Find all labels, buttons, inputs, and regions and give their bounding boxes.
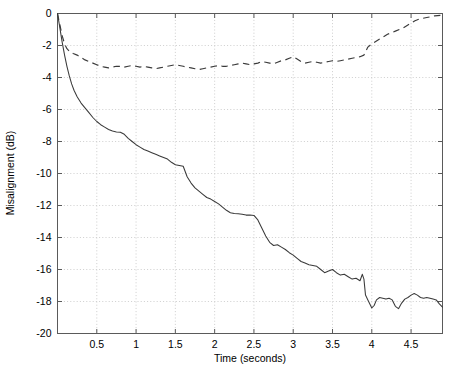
x-axis-title: Time (seconds) — [214, 352, 286, 364]
x-tick-label: 4 — [369, 338, 375, 350]
misalignment-chart: 0.511.522.533.544.5 0-2-4-6-8-10-12-14-1… — [0, 0, 458, 374]
x-tick-label: 2 — [212, 338, 218, 350]
x-tick-label: 3 — [290, 338, 296, 350]
x-tick-label: 4.5 — [404, 338, 419, 350]
x-axis-tick-labels: 0.511.522.533.544.5 — [89, 338, 418, 350]
y-tick-label: -18 — [36, 295, 51, 307]
y-tick-label: -12 — [36, 199, 51, 211]
y-tick-label: -14 — [36, 231, 51, 243]
y-tick-label: -16 — [36, 263, 51, 275]
y-tick-label: 0 — [46, 7, 52, 19]
y-tick-label: -4 — [42, 71, 51, 83]
x-tick-label: 0.5 — [89, 338, 104, 350]
y-tick-label: -8 — [42, 135, 51, 147]
y-tick-label: -20 — [36, 327, 51, 339]
x-tick-label: 1.5 — [168, 338, 183, 350]
y-tick-label: -2 — [42, 39, 51, 51]
x-tick-label: 3.5 — [325, 338, 340, 350]
y-tick-label: -6 — [42, 103, 51, 115]
y-tick-label: -10 — [36, 167, 51, 179]
y-axis-title: Misalignment (dB) — [4, 131, 16, 216]
figure-container: 0.511.522.533.544.5 0-2-4-6-8-10-12-14-1… — [0, 0, 458, 374]
x-tick-label: 2.5 — [247, 338, 262, 350]
figure-background — [0, 0, 458, 374]
x-tick-label: 1 — [133, 338, 139, 350]
